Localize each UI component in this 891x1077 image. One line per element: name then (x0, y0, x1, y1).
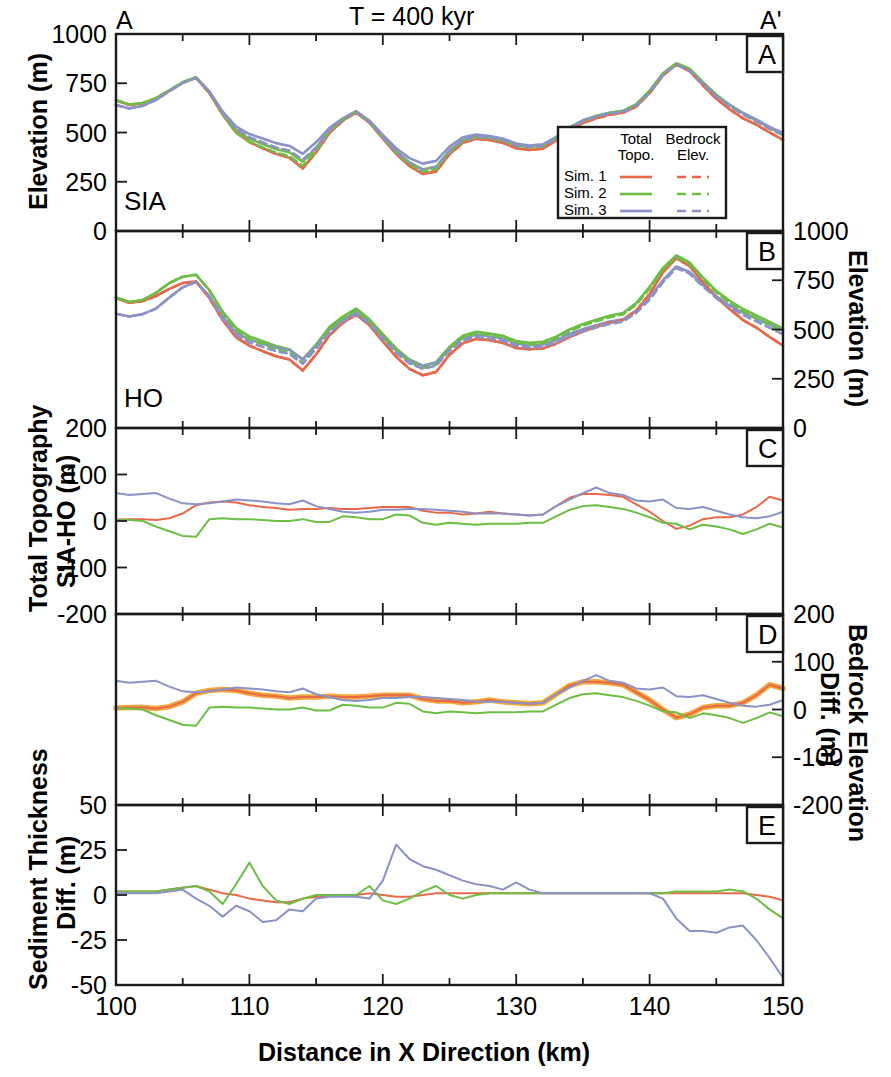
figure-title: T = 400 kyr (349, 2, 474, 31)
panel-d-frame (116, 614, 783, 805)
panel-label-d: D (758, 620, 778, 651)
panel-b-annotation: HO (124, 383, 163, 414)
y-tick-label-right: 1000 (793, 217, 849, 245)
panel-a-annotation: SIA (124, 186, 166, 217)
y-tick-label-right: 500 (793, 316, 835, 344)
y-tick-label-right: 250 (793, 365, 835, 393)
y-tick-label-right: 0 (793, 696, 807, 724)
panel-e-curves (116, 845, 783, 978)
axis-title-bedrock-line1: Bedrock Elevation (843, 624, 872, 842)
legend-header-total-topo: Topo. (618, 146, 655, 163)
y-tick-label-left: 200 (65, 414, 107, 442)
legend-row-label-2: Sim. 2 (564, 184, 607, 201)
x-tick-label: 100 (95, 992, 137, 1020)
left-endpoint-label: A (116, 6, 133, 35)
axis-title-elevation-left: Elevation (m) (24, 53, 53, 210)
y-tick-label-left: 750 (65, 69, 107, 97)
axis-title-sediment-line2: Diff. (m) (52, 836, 81, 930)
y-tick-label-left: -200 (57, 600, 107, 628)
y-tick-label-left: 1000 (51, 20, 107, 48)
y-tick-label-left: 0 (93, 507, 107, 535)
panel-label-c: C (758, 434, 778, 465)
axis-title-bedrock-line2: Diff. (m) (815, 672, 844, 766)
y-tick-label-left: 500 (65, 119, 107, 147)
axis-title-x: Distance in X Direction (km) (258, 1038, 590, 1067)
x-tick-label: 150 (762, 992, 804, 1020)
y-tick-label-left: 0 (93, 881, 107, 909)
x-tick-label: 120 (362, 992, 404, 1020)
y-tick-label-left: 0 (93, 217, 107, 245)
y-tick-label-left: 25 (79, 836, 107, 864)
series-b-0 (116, 258, 783, 375)
panel-c-curves (116, 488, 783, 537)
x-tick-label: 110 (229, 992, 269, 1020)
cross-section-figure: 02505007501000-200-1000100200-50-2502550… (0, 0, 891, 1077)
y-tick-label-right: -200 (793, 791, 843, 819)
x-tick-label: 130 (495, 992, 537, 1020)
axis-title-total-topography-line1: Total Topography (24, 405, 53, 612)
legend-row-label-3: Sim. 3 (564, 201, 607, 218)
panel-label-a: A (758, 40, 776, 71)
panel-c-frame (116, 428, 783, 614)
series-e-2 (116, 845, 783, 978)
y-tick-label-left: 50 (79, 791, 107, 819)
legend-header-total-topo: Total (620, 130, 652, 147)
x-tick-label: 140 (629, 992, 671, 1020)
y-tick-label-left: -25 (71, 926, 107, 954)
series-b-3 (116, 258, 783, 375)
axis-title-elevation-right: Elevation (m) (843, 250, 872, 407)
panel-d-curves (116, 675, 783, 726)
legend-row-label-1: Sim. 1 (564, 167, 607, 184)
right-endpoint-label: A' (760, 6, 781, 35)
panel-label-b: B (758, 237, 776, 268)
y-tick-label-right: 0 (793, 414, 807, 442)
axis-title-total-topography-line2: SIA-HO (m) (52, 455, 81, 588)
legend-header-bedrock-elev: Elev. (677, 146, 709, 163)
y-tick-label-left: 250 (65, 168, 107, 196)
legend-header-bedrock-elev: Bedrock (665, 130, 721, 147)
panel-b-curves (116, 255, 783, 375)
y-tick-label-right: 750 (793, 266, 835, 294)
axis-title-sediment-line1: Sediment Thickness (24, 748, 53, 990)
legend: TotalTopo.BedrockElev.Sim. 1Sim. 2Sim. 3 (558, 127, 726, 218)
panel-label-e: E (758, 811, 776, 842)
y-tick-label-right: 200 (793, 600, 835, 628)
